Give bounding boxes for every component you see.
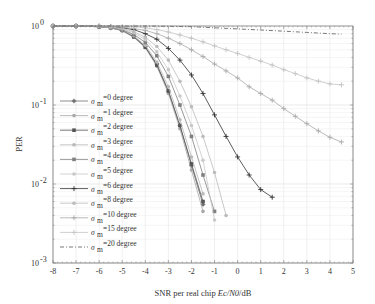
x-tick-label: 1 <box>259 267 263 276</box>
series-9 <box>51 24 344 88</box>
y-tick-label: 10 <box>31 101 39 110</box>
legend-label: =20 degree <box>103 239 137 248</box>
series-10 <box>53 26 342 34</box>
legend-item: σm=10 degree <box>60 210 137 225</box>
legend-label: =3 degree <box>103 137 134 146</box>
y-tick-label: 10 <box>31 259 39 268</box>
legend-sigma: σ <box>91 126 95 135</box>
legend-sigma: σ <box>91 214 95 223</box>
legend-label: =5 degree <box>103 166 134 175</box>
legend-label: =15 degree <box>103 224 137 233</box>
y-tick-label: 10 <box>31 180 39 189</box>
x-tick-label: 5 <box>351 267 355 276</box>
per-vs-snr-chart: -8-7-6-5-4-3-2-1012345 10010-110-210-3 S… <box>0 0 375 304</box>
x-tick-label: -7 <box>73 267 80 276</box>
x-tick-label: -8 <box>50 267 57 276</box>
y-tick-exponent: 0 <box>40 18 44 27</box>
legend-label: =4 degree <box>103 151 134 160</box>
x-tick-label: -4 <box>142 267 149 276</box>
legend-sigma: σ <box>91 155 95 164</box>
y-tick-exponent: -1 <box>40 97 47 106</box>
legend-sigma: σ <box>91 141 95 150</box>
x-tick-label: -2 <box>188 267 195 276</box>
legend-sigma: σ <box>91 170 95 179</box>
legend-label: =6 degree <box>103 181 134 190</box>
x-tick-label: -6 <box>96 267 103 276</box>
legend-item: σm=15 degree <box>60 224 137 239</box>
legend-sigma: σ <box>91 199 95 208</box>
legend-sigma: σ <box>91 243 95 252</box>
legend-label: =0 degree <box>103 93 134 102</box>
legend-item: σm=20 degree <box>60 239 137 254</box>
x-tick-label: 2 <box>282 267 286 276</box>
y-axis-label: PER <box>14 136 24 152</box>
x-axis-label: SNR per real chip Ec/N0/dB <box>155 288 252 298</box>
x-tick-label: -3 <box>165 267 172 276</box>
y-tick-label: 10 <box>31 22 39 31</box>
legend-sigma: σ <box>91 228 95 237</box>
x-tick-label: 0 <box>236 267 240 276</box>
y-tick-exponent: -2 <box>40 176 47 185</box>
legend-label: =8 degree <box>103 195 134 204</box>
legend-sigma: σ <box>91 112 95 121</box>
legend-sigma: σ <box>91 185 95 194</box>
legend-sigma: σ <box>91 97 95 106</box>
y-tick-labels: 10010-110-210-3 <box>31 18 47 268</box>
x-tick-labels: -8-7-6-5-4-3-2-1012345 <box>50 267 355 276</box>
x-tick-label: -1 <box>211 267 218 276</box>
x-tick-label: 3 <box>305 267 309 276</box>
legend-label: =10 degree <box>103 210 137 219</box>
x-tick-label: 4 <box>328 267 332 276</box>
legend-label: =2 degree <box>103 122 134 131</box>
y-tick-exponent: -3 <box>40 255 47 264</box>
legend-label: =1 degree <box>103 108 134 117</box>
x-tick-label: -5 <box>119 267 126 276</box>
